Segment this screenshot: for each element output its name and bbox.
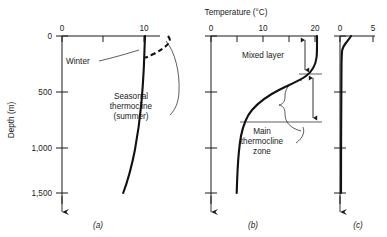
panel-a-ytick-label-1500: 1,500 (32, 189, 53, 198)
panel-a-xtick-label-10: 10 (139, 24, 149, 33)
panel-a-winter-leader (99, 50, 139, 61)
panel-b: Temperature (°C) 0 10 20 Mixed layer (205, 8, 322, 230)
panel-a-seasonal-label-line2: thermocline (110, 102, 153, 111)
panel-c-temperature-curve (341, 36, 351, 193)
panel-a-seasonal-leader (166, 41, 179, 115)
panel-b-xtick-label-20: 20 (310, 24, 320, 33)
panel-a-ytick-label-500: 500 (38, 88, 52, 97)
panel-b-xtick-label-0: 0 (209, 24, 214, 33)
panel-a-ytick-label-0: 0 (47, 32, 52, 41)
panel-a-xtick-label-0: 0 (60, 24, 65, 33)
panel-b-main-thermocline-label-line1: Main (253, 127, 271, 136)
panel-c-xtick-label-0: 0 (338, 24, 343, 33)
panel-b-main-thermocline-label-line2: thermocline (241, 137, 284, 146)
y-axis-label: Depth (m) (7, 102, 16, 139)
panel-c-xtick-label-5: 5 (371, 24, 376, 33)
temperature-axis-title: Temperature (°C) (205, 8, 268, 17)
panel-b-main-thermocline-label-line3: zone (253, 147, 271, 156)
panel-a-caption: (a) (93, 221, 103, 230)
panel-a-seasonal-label-line1: Seasonal (114, 92, 148, 101)
panel-a-seasonal-label-line3: (summer) (113, 112, 148, 121)
panel-b-caption: (b) (248, 221, 258, 230)
panel-a-summer-curve (145, 36, 170, 58)
panel-a-winter-label: Winter (66, 57, 90, 66)
panel-c: 0 5 (c) (334, 24, 376, 230)
panel-b-xtick-label-10: 10 (258, 24, 268, 33)
panel-a-ytick-label-1000: 1,000 (32, 144, 53, 153)
ocean-temperature-profile-figure: 0 10 0 500 1,000 1,500 Depth (m) Winter … (0, 0, 387, 237)
panel-a: 0 10 0 500 1,000 1,500 Depth (m) Winter … (7, 24, 179, 230)
panel-c-caption: (c) (353, 221, 363, 230)
panel-b-mixed-layer-label: Mixed layer (242, 51, 284, 60)
